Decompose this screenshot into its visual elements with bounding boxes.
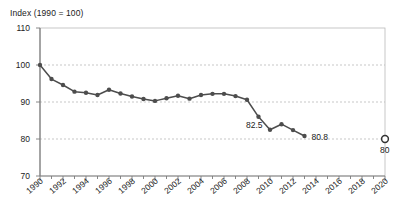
data-point-marker xyxy=(84,91,88,95)
y-axis-tick-label: 100 xyxy=(8,60,30,70)
data-point-marker xyxy=(38,63,42,67)
data-point-marker xyxy=(141,97,145,101)
data-point-marker xyxy=(256,115,260,119)
series-line xyxy=(40,65,305,136)
data-point-marker xyxy=(61,83,65,87)
data-point-marker xyxy=(153,99,157,103)
line-chart: Index (1990 = 100) 708090100110 19901992… xyxy=(0,0,416,223)
data-point-marker xyxy=(72,89,76,93)
data-point-marker xyxy=(268,128,272,132)
data-point-marker xyxy=(118,91,122,95)
data-point-marker xyxy=(130,94,134,98)
data-point-marker xyxy=(302,134,306,138)
target-point-marker xyxy=(382,136,389,143)
data-point-marker xyxy=(176,94,180,98)
data-point-marker xyxy=(199,93,203,97)
point-value-label: 82.5 xyxy=(246,120,263,130)
data-point-marker xyxy=(187,96,191,100)
data-point-marker xyxy=(210,92,214,96)
data-point-marker xyxy=(107,88,111,92)
data-point-marker xyxy=(291,128,295,132)
y-axis-tick-label: 70 xyxy=(8,171,30,181)
data-point-marker xyxy=(49,77,53,81)
data-point-marker xyxy=(164,96,168,100)
point-value-label: 80.8 xyxy=(312,132,329,142)
y-axis-tick-label: 110 xyxy=(8,23,30,33)
data-point-marker xyxy=(279,122,283,126)
point-value-label: 80 xyxy=(380,145,389,155)
data-point-marker xyxy=(222,92,226,96)
data-point-marker xyxy=(95,93,99,97)
y-axis-tick-label: 80 xyxy=(8,134,30,144)
data-point-marker xyxy=(245,98,249,102)
y-axis-tick-label: 90 xyxy=(8,97,30,107)
data-point-marker xyxy=(233,94,237,98)
